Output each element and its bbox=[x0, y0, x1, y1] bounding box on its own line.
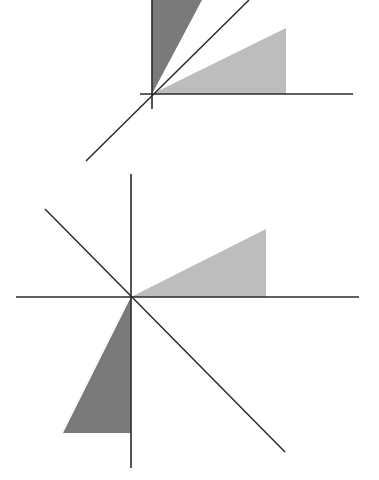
dark-triangle bbox=[63, 297, 131, 433]
diagram-canvas bbox=[0, 0, 379, 480]
figure-2 bbox=[16, 174, 359, 468]
figure-1 bbox=[86, 0, 353, 161]
light-triangle bbox=[131, 229, 266, 297]
